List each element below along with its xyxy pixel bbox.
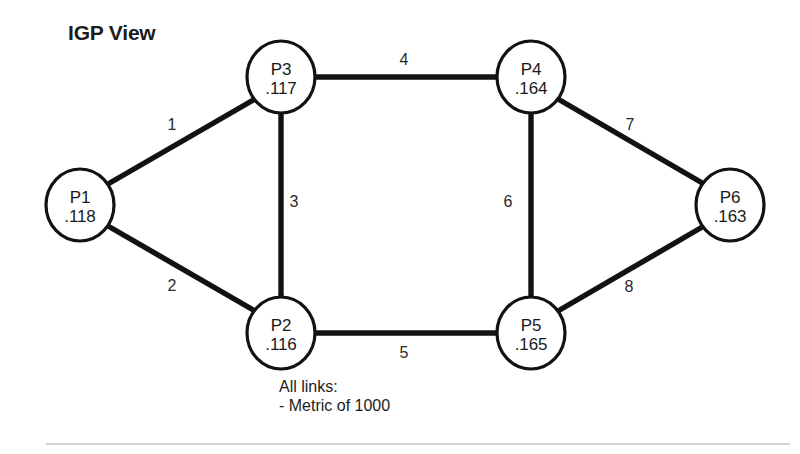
footer-divider bbox=[46, 443, 790, 445]
link-label-7: 7 bbox=[626, 116, 635, 133]
node-address-p4: .164 bbox=[515, 79, 548, 98]
node-p4[interactable]: P4.164 bbox=[497, 41, 565, 113]
node-name-p3: P3 bbox=[271, 60, 292, 79]
diagram-caption: All links: - Metric of 1000 bbox=[279, 377, 390, 415]
node-name-p5: P5 bbox=[521, 316, 542, 335]
node-address-p2: .116 bbox=[265, 335, 296, 354]
igp-view-diagram-page: IGP View P1.118P2.116P3.117P4.164P5.165P… bbox=[0, 0, 800, 454]
node-p1[interactable]: P1.118 bbox=[46, 169, 114, 241]
link-label-1: 1 bbox=[168, 116, 177, 133]
node-p2[interactable]: P2.116 bbox=[247, 297, 315, 369]
link-p5-p6 bbox=[558, 226, 704, 311]
network-topology-graph: P1.118P2.116P3.117P4.164P5.165P6.163 123… bbox=[0, 0, 800, 454]
link-label-8: 8 bbox=[625, 278, 634, 295]
link-label-4: 4 bbox=[400, 51, 409, 68]
caption-line-2: - Metric of 1000 bbox=[279, 396, 390, 415]
node-address-p1: .118 bbox=[64, 207, 95, 226]
node-name-p1: P1 bbox=[70, 188, 91, 207]
link-p1-p2 bbox=[108, 226, 255, 311]
link-label-2: 2 bbox=[168, 277, 177, 294]
node-name-p4: P4 bbox=[521, 60, 542, 79]
node-p3[interactable]: P3.117 bbox=[247, 41, 315, 113]
nodes-layer: P1.118P2.116P3.117P4.164P5.165P6.163 bbox=[46, 41, 764, 369]
node-name-p6: P6 bbox=[720, 188, 741, 207]
node-address-p6: .163 bbox=[714, 207, 747, 226]
node-address-p5: .165 bbox=[515, 335, 548, 354]
link-p1-p3 bbox=[108, 99, 255, 184]
link-p4-p6 bbox=[558, 99, 704, 184]
node-p5[interactable]: P5.165 bbox=[497, 297, 565, 369]
node-p6[interactable]: P6.163 bbox=[696, 169, 764, 241]
link-label-3: 3 bbox=[290, 193, 299, 210]
node-address-p3: .117 bbox=[265, 79, 296, 98]
link-label-6: 6 bbox=[504, 193, 513, 210]
link-labels-layer: 12345678 bbox=[168, 51, 635, 361]
link-label-5: 5 bbox=[400, 344, 409, 361]
node-name-p2: P2 bbox=[271, 316, 292, 335]
links-layer bbox=[108, 77, 704, 333]
caption-line-1: All links: bbox=[279, 377, 390, 396]
